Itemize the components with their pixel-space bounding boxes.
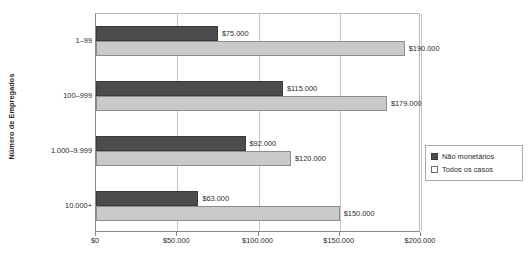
chart-legend: Não monetáriosTodos os casos	[425, 145, 523, 181]
category-label: 100–999	[20, 91, 92, 100]
bar-todos-os-casos[interactable]	[96, 96, 387, 111]
legend-item[interactable]: Todos os casos	[431, 163, 517, 176]
x-axis-label: $150.000	[323, 236, 354, 245]
bar-value-label: $190.000	[409, 41, 440, 56]
bar-group: $92.000$120.000	[96, 136, 419, 166]
bar-value-label: $63.000	[202, 191, 229, 206]
bar-value-label: $75.000	[222, 26, 249, 41]
bar-nao-monetarios[interactable]	[96, 26, 218, 41]
legend-swatch-icon	[431, 166, 438, 173]
y-axis-title-text: Número de Empregados	[7, 73, 16, 159]
bar-todos-os-casos[interactable]	[96, 41, 405, 56]
legend-item[interactable]: Não monetários	[431, 150, 517, 163]
bar-todos-os-casos[interactable]	[96, 206, 340, 221]
category-label: 1.000–9.999	[20, 145, 92, 154]
bar-value-label: $150.000	[344, 206, 375, 221]
bar-value-label: $179.000	[391, 96, 422, 111]
bar-todos-os-casos[interactable]	[96, 151, 291, 166]
bar-value-label: $115.000	[287, 81, 317, 96]
bar-nao-monetarios[interactable]	[96, 136, 246, 151]
bar-group: $63.000$150.000	[96, 191, 419, 221]
category-label: 1–99	[20, 36, 92, 45]
bar-chart: Número de Empregados 1–99100–9991.000–9.…	[0, 0, 532, 266]
x-axis-label: $50.000	[163, 236, 190, 245]
bar-group: $75.000$190.000	[96, 26, 419, 56]
x-axis-label: $100.000	[242, 236, 273, 245]
category-axis-labels: 1–99100–9991.000–9.99910.000+	[18, 0, 92, 266]
x-axis-label: $0	[91, 236, 99, 245]
bar-group: $115.000$179.000	[96, 81, 419, 111]
bar-nao-monetarios[interactable]	[96, 81, 283, 96]
legend-item-label: Não monetários	[442, 152, 494, 161]
bar-value-label: $92.000	[250, 136, 277, 151]
x-axis-labels: $0$50.000$100.000$150.000$200.000	[95, 236, 420, 252]
category-label: 10.000+	[20, 200, 92, 209]
plot-area: $75.000$190.000$115.000$179.000$92.000$1…	[95, 13, 420, 232]
legend-swatch-icon	[431, 153, 438, 160]
bar-nao-monetarios[interactable]	[96, 191, 198, 206]
x-axis-label: $200.000	[405, 236, 436, 245]
bar-value-label: $120.000	[295, 151, 326, 166]
legend-item-label: Todos os casos	[442, 165, 493, 174]
